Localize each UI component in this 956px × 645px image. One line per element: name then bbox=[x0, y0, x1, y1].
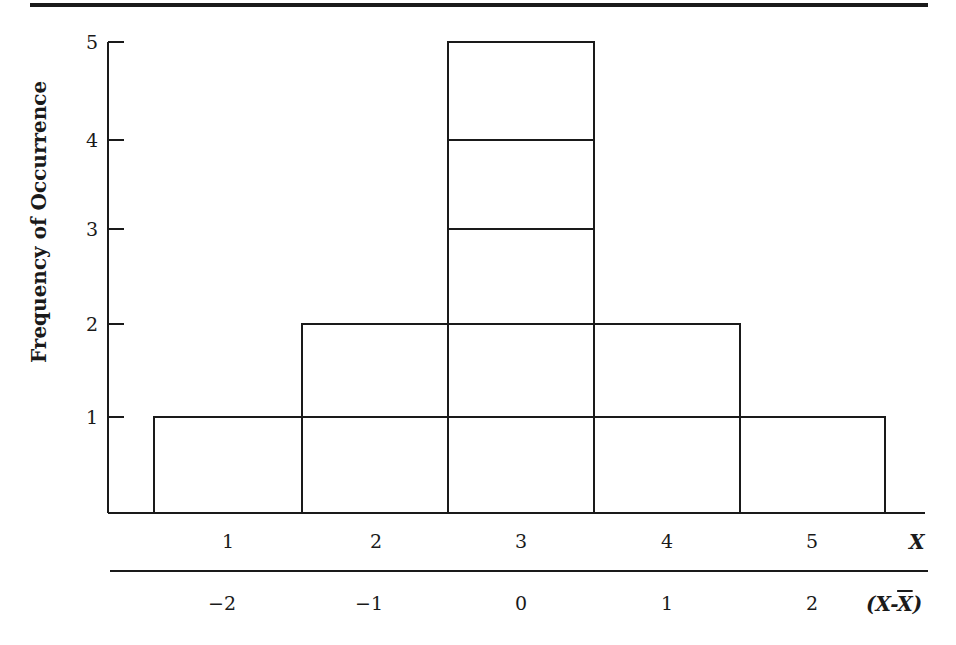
deviation-x: X- bbox=[875, 592, 897, 616]
bar-x4-unit-1 bbox=[594, 417, 740, 513]
deviation-label-1: 1 bbox=[637, 594, 697, 613]
bar-x2-unit-2 bbox=[302, 324, 448, 417]
y-axis-title: Frequency of Occurrence bbox=[29, 93, 49, 363]
bar-x3-unit-3 bbox=[448, 229, 594, 324]
x-label-3: 3 bbox=[491, 532, 551, 551]
deviation-label-neg1: −1 bbox=[339, 594, 399, 613]
y-tick-label-1: 1 bbox=[68, 408, 98, 427]
deviation-close-paren: ) bbox=[913, 592, 922, 616]
bar-x3-unit-2 bbox=[448, 324, 594, 417]
deviation-axis-title: (X-X) bbox=[866, 594, 922, 614]
bar-x3-unit-4 bbox=[448, 140, 594, 229]
x-label-4: 4 bbox=[637, 532, 697, 551]
y-tick-label-3: 3 bbox=[68, 220, 98, 239]
bar-x2-unit-1 bbox=[302, 417, 448, 513]
bar-x1 bbox=[154, 417, 302, 513]
bar-x3-unit-1 bbox=[448, 417, 594, 513]
y-tick-label-5: 5 bbox=[68, 33, 98, 52]
bar-x3-unit-5 bbox=[448, 42, 594, 140]
deviation-label-2: 2 bbox=[782, 594, 842, 613]
x-label-2: 2 bbox=[346, 532, 406, 551]
bar-x4-unit-2 bbox=[594, 324, 740, 417]
deviation-xbar: X bbox=[897, 592, 913, 616]
deviation-label-neg2: −2 bbox=[192, 594, 252, 613]
y-tick-label-2: 2 bbox=[68, 315, 98, 334]
histogram-figure: 5 4 3 2 1 Frequency of Occurrence 1 2 3 … bbox=[0, 0, 956, 645]
deviation-label-0: 0 bbox=[491, 594, 551, 613]
y-tick-label-4: 4 bbox=[68, 131, 98, 150]
bar-x5 bbox=[740, 417, 885, 513]
x-label-5: 5 bbox=[782, 532, 842, 551]
x-label-1: 1 bbox=[198, 532, 258, 551]
x-axis-title: X bbox=[909, 532, 925, 552]
